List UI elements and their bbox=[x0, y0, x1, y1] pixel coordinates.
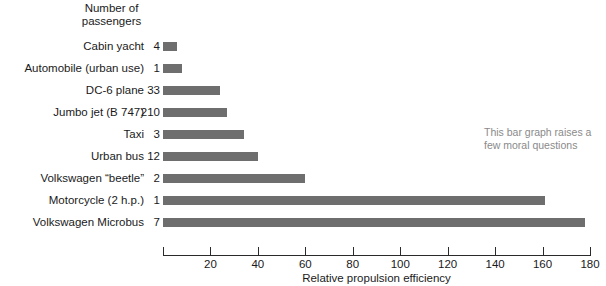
category-label: Automobile (urban use) bbox=[0, 58, 144, 78]
bar bbox=[163, 152, 258, 161]
x-axis-tick bbox=[400, 247, 401, 256]
passenger-count: 210 bbox=[130, 102, 160, 122]
bar bbox=[163, 108, 227, 117]
passenger-count: 7 bbox=[130, 212, 160, 232]
x-axis-tick-label: 100 bbox=[380, 258, 420, 270]
x-axis-tick-label: 180 bbox=[570, 258, 606, 270]
passengers-header-line1: Number of bbox=[60, 2, 163, 15]
annotation-line2: few moral questions bbox=[484, 139, 602, 152]
x-axis-line bbox=[163, 255, 590, 256]
bar-row: Jumbo jet (B 747)210 bbox=[0, 102, 606, 122]
x-axis-tick-label: 60 bbox=[285, 258, 325, 270]
x-axis-tick-label: 140 bbox=[475, 258, 515, 270]
x-axis-tick-label: 20 bbox=[190, 258, 230, 270]
bar bbox=[163, 218, 585, 227]
x-axis-tick-label: 160 bbox=[523, 258, 563, 270]
annotation-line1: This bar graph raises a bbox=[484, 126, 602, 139]
bar-row: Automobile (urban use)1 bbox=[0, 58, 606, 78]
bar bbox=[163, 130, 244, 139]
bar-row: Volkswagen “beetle”2 bbox=[0, 168, 606, 188]
x-axis-tick bbox=[495, 247, 496, 256]
category-label: Taxi bbox=[0, 124, 144, 144]
chart-annotation: This bar graph raises a few moral questi… bbox=[484, 126, 602, 151]
category-label: Volkswagen “beetle” bbox=[0, 168, 144, 188]
category-label: Urban bus bbox=[0, 146, 144, 166]
passengers-column-header: Number of passengers bbox=[60, 2, 163, 28]
x-axis-tick bbox=[210, 247, 211, 256]
bar bbox=[163, 86, 220, 95]
x-axis-tick bbox=[543, 247, 544, 256]
x-axis-tick bbox=[305, 247, 306, 256]
passenger-count: 1 bbox=[130, 58, 160, 78]
passengers-header-line2: passengers bbox=[60, 15, 163, 28]
bar-row: Motorcycle (2 h.p.)1 bbox=[0, 190, 606, 210]
category-label: DC-6 plane bbox=[0, 80, 144, 100]
x-axis-tick bbox=[353, 247, 354, 256]
bar bbox=[163, 196, 545, 205]
x-axis-tick bbox=[590, 247, 591, 256]
passenger-count: 1 bbox=[130, 190, 160, 210]
x-axis-tick-label: 120 bbox=[428, 258, 468, 270]
x-axis-tick-label: 40 bbox=[238, 258, 278, 270]
bar-row: DC-6 plane33 bbox=[0, 80, 606, 100]
bar-row: Cabin yacht4 bbox=[0, 36, 606, 56]
passenger-count: 4 bbox=[130, 36, 160, 56]
bar bbox=[163, 174, 305, 183]
x-axis-tick bbox=[448, 247, 449, 256]
x-axis-tick bbox=[258, 247, 259, 256]
bar-chart: Number of passengers Cabin yacht4Automob… bbox=[0, 0, 606, 286]
x-axis-tick-label: 80 bbox=[333, 258, 373, 270]
passenger-count: 2 bbox=[130, 168, 160, 188]
passenger-count: 12 bbox=[130, 146, 160, 166]
passenger-count: 3 bbox=[130, 124, 160, 144]
bar-row: Volkswagen Microbus7 bbox=[0, 212, 606, 232]
bar bbox=[163, 64, 182, 73]
category-label: Jumbo jet (B 747) bbox=[0, 102, 144, 122]
x-axis-title: Relative propulsion efficiency bbox=[163, 272, 590, 284]
passenger-count: 33 bbox=[130, 80, 160, 100]
bar bbox=[163, 42, 177, 51]
category-label: Motorcycle (2 h.p.) bbox=[0, 190, 144, 210]
category-label: Cabin yacht bbox=[0, 36, 144, 56]
category-label: Volkswagen Microbus bbox=[0, 212, 144, 232]
